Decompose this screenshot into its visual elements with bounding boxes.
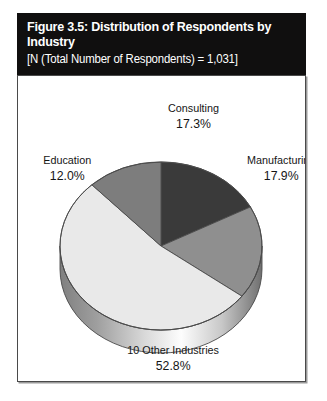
pie-label-education: Education [43,154,91,166]
chart-frame: Consulting17.3%Manufacturing17.9%10 Othe… [17,75,306,382]
pie-label-manufacturing: Manufacturing [247,154,305,166]
pie-label-10-other-industries: 10 Other Industries [127,344,219,356]
pie-value-10-other-industries: 52.8% [156,358,191,374]
pie-label-consulting: Consulting [168,102,219,114]
figure-container: Figure 3.5: Distribution of Respondents … [17,13,306,382]
pie-chart: Consulting17.3%Manufacturing17.9%10 Othe… [18,76,305,381]
figure-header: Figure 3.5: Distribution of Respondents … [17,13,306,75]
figure-title: Figure 3.5: Distribution of Respondents … [27,20,278,49]
pie-value-education: 12.0% [50,168,85,184]
figure-subtitle: [N (Total Number of Respondents) = 1,031… [27,52,278,66]
pie-group [60,162,262,353]
pie-value-manufacturing: 17.9% [264,168,299,184]
pie-value-consulting: 17.3% [176,116,211,132]
